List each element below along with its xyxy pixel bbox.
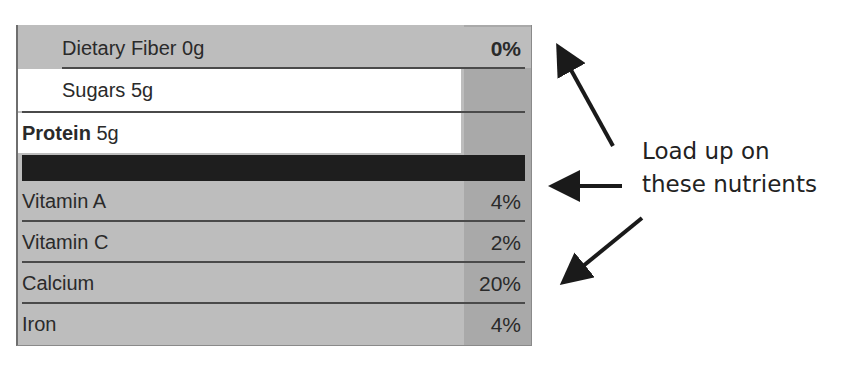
annotation-line-1: Load up on: [642, 135, 817, 168]
annotation-line-2: these nutrients: [642, 168, 817, 201]
arrow-up-left-icon: [560, 50, 613, 146]
annotation-text: Load up on these nutrients: [642, 135, 817, 201]
arrow-down-left-icon: [566, 218, 642, 280]
